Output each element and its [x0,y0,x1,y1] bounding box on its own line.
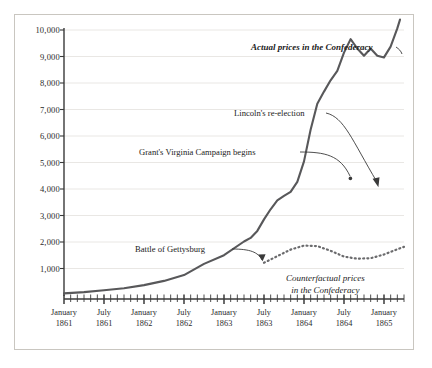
lincoln-arrowhead [373,177,380,187]
annotation-lincoln-reelection: Lincoln's re-election [234,108,305,118]
grant-leader [300,152,350,176]
x-tick-month: July [176,308,193,319]
x-tick-month: January [371,308,397,319]
x-tick-month: January [51,308,77,319]
x-tick-label: July1864 [336,308,353,329]
annotation-grant-campaign: Grant's Virginia Campaign begins [139,147,255,157]
lincoln-leader [326,113,377,182]
x-tick-year: 1861 [96,319,113,330]
annotation-battle-gettysburg: Battle of Gettysburg [135,244,205,254]
x-tick-label: July1863 [256,308,273,329]
annotation-actual-prices: Actual prices in the Confederacy [251,42,373,52]
x-tick-label: January1862 [131,308,157,329]
x-tick-month: July [256,308,273,319]
gettysburg-leader [232,249,262,260]
x-tick-label: January1864 [291,308,317,329]
x-tick-year: 1861 [51,319,77,330]
series-counterfactual-prices [264,246,404,263]
x-tick-month: July [336,308,353,319]
annotation-counterfactual-prices: Counterfactual prices in the Confederacy [286,272,365,296]
x-tick-year: 1863 [211,319,237,330]
x-tick-label: July1862 [176,308,193,329]
chart-figure: 10,000 9,000 8,000 7,000 6,000 5,000 4,0… [0,0,432,368]
x-tick-label: January1861 [51,308,77,329]
x-tick-year: 1864 [336,319,353,330]
x-tick-month: January [291,308,317,319]
grant-endpoint-dot [349,177,353,181]
x-tick-year: 1864 [291,319,317,330]
x-tick-month: July [96,308,113,319]
x-tick-month: January [131,308,157,319]
x-tick-year: 1863 [256,319,273,330]
gettysburg-arrowhead [258,254,265,261]
x-tick-year: 1865 [371,319,397,330]
actual-label-leader [396,47,402,54]
x-tick-label: January1865 [371,308,397,329]
x-tick-year: 1862 [131,319,157,330]
x-tick-month: January [211,308,237,319]
x-tick-year: 1862 [176,319,193,330]
counterfactual-label-line1: Counterfactual prices [286,272,365,284]
x-tick-label: July1861 [96,308,113,329]
counterfactual-label-line2: in the Confederacy [286,284,365,296]
x-tick-label: January1863 [211,308,237,329]
